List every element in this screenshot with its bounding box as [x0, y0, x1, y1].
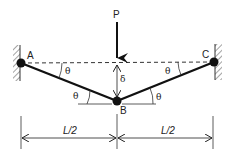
angle-label-A: θ [65, 67, 70, 76]
diagram-canvas [0, 0, 237, 158]
deflection-label: δ [120, 75, 125, 84]
angle-label-C: θ [165, 67, 170, 76]
load-label: P [113, 10, 120, 20]
reference-dashed-line [21, 62, 214, 63]
angle-arc-C [178, 62, 181, 75]
point-B-label: B [120, 106, 127, 116]
angle-label-B-left: θ [73, 92, 78, 101]
pin-C [210, 58, 219, 67]
pin-A [17, 59, 26, 68]
point-A-label: A [27, 51, 34, 61]
angle-arc-A [59, 63, 62, 78]
point-C-label: C [202, 50, 209, 60]
angle-label-B-right: θ [156, 93, 161, 102]
angle-arc-B-right [150, 88, 153, 104]
truss-diagram: P A C B δ θ θ θ θ L/2 L/2 [0, 0, 237, 158]
angle-arc-B-left [87, 90, 90, 104]
dim-label-right: L/2 [161, 126, 175, 136]
dim-label-left: L/2 [63, 126, 77, 136]
